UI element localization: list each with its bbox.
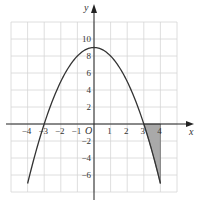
- x-tick-label: 2: [124, 126, 129, 136]
- x-tick-label: 1: [107, 126, 112, 136]
- y-axis-arrow-icon: [91, 4, 97, 13]
- origin-label: O: [85, 125, 92, 136]
- x-tick-label: −1: [72, 126, 82, 136]
- axes: [6, 4, 194, 200]
- y-tick-label: 10: [82, 34, 92, 44]
- parabola-chart: −4−3−2−11234 108642−2−4−6 O x y: [0, 0, 201, 202]
- x-axis-label: x: [188, 126, 194, 137]
- plot-area: −4−3−2−11234 108642−2−4−6 O x y: [0, 0, 201, 202]
- y-tick-label: 6: [87, 68, 92, 78]
- x-tick-label: −2: [55, 126, 65, 136]
- y-tick-label: 2: [87, 102, 92, 112]
- y-axis-label: y: [83, 2, 89, 13]
- x-tick-label: −4: [22, 126, 32, 136]
- y-tick-label: 4: [87, 85, 92, 95]
- x-tick-label: −3: [38, 126, 48, 136]
- y-tick-label: −4: [81, 153, 91, 163]
- x-tick-label: 4: [157, 126, 162, 136]
- x-tick-label: 3: [141, 126, 146, 136]
- y-tick-label: 8: [87, 51, 92, 61]
- y-tick-label: −6: [81, 170, 91, 180]
- y-tick-label: −2: [81, 136, 91, 146]
